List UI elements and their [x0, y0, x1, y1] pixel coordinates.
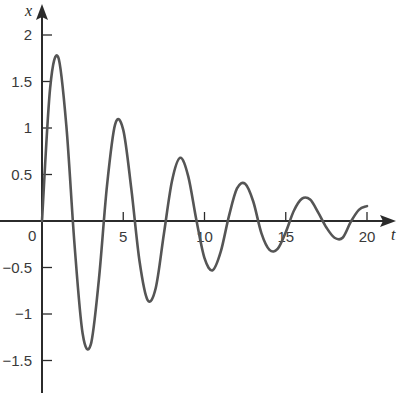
y-axis-label: x [24, 2, 32, 19]
x-axis-label: t [391, 226, 396, 243]
y-tick-label: −0.5 [2, 259, 32, 276]
origin-label: 0 [28, 227, 36, 244]
x-tick-label: 5 [119, 228, 127, 245]
y-tick-label: −1 [15, 305, 32, 322]
y-tick-label: −1.5 [2, 352, 32, 369]
oscillation-curve [42, 55, 367, 349]
y-tick-label: 0.5 [11, 166, 32, 183]
x-tick-label: 20 [359, 228, 376, 245]
y-tick-label: 1 [24, 119, 32, 136]
y-tick-label: 1.5 [11, 73, 32, 90]
damped-oscillation-chart: 5101520 21.510.5−0.5−1−1.5 t x 0 [0, 0, 400, 393]
y-tick-label: 2 [24, 26, 32, 43]
